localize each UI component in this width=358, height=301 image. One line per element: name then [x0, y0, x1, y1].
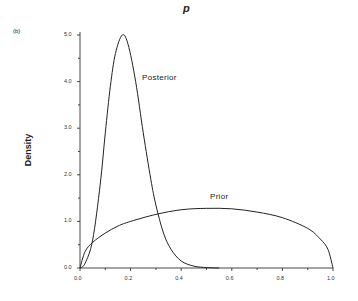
x-tick-label: 0.0	[74, 275, 82, 281]
y-tick-label: 0.0	[64, 264, 72, 270]
prior-curve	[80, 208, 333, 268]
x-tick-label: 0.2	[125, 275, 133, 281]
x-tick-label: 0.4	[175, 275, 183, 281]
posterior-label: Posterior	[142, 73, 177, 82]
x-tick-label: 1.0	[327, 275, 335, 281]
prior-label: Prior	[210, 192, 228, 201]
y-tick-label: 1.0	[64, 217, 72, 223]
x-tick-label: 0.6	[226, 275, 234, 281]
plot-area	[0, 0, 358, 301]
y-tick-label: 4.0	[64, 78, 72, 84]
y-tick-label: 5.0	[64, 31, 72, 37]
x-tick-label: 0.8	[276, 275, 284, 281]
y-tick-label: 2.0	[64, 171, 72, 177]
posterior-curve	[80, 35, 219, 268]
y-tick-label: 3.0	[64, 124, 72, 130]
